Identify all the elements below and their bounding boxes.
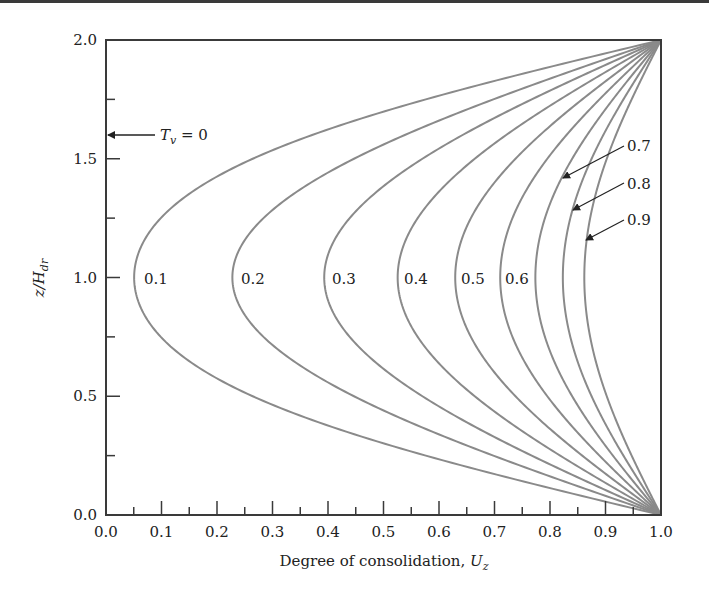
x-tick-label: 0.5: [372, 523, 396, 541]
consolidation-chart: 0.00.10.20.30.40.50.60.70.80.91.0 0.00.5…: [0, 0, 709, 609]
isochrone-tv-0.8: [563, 40, 661, 515]
curve-label-0.6: 0.6: [505, 270, 529, 288]
isochrone-tv-0.9: [584, 40, 661, 515]
y-tick-label: 1.0: [73, 269, 97, 287]
curve-label-0.8: 0.8: [627, 175, 651, 193]
tv0-label: Tv = 0: [160, 126, 208, 147]
curve-label-0.5: 0.5: [461, 270, 485, 288]
curve-label-0.4: 0.4: [404, 270, 428, 288]
x-tick-label: 0.0: [94, 523, 118, 541]
x-tick-label: 0.6: [427, 523, 451, 541]
isochrone-tv-0.3: [324, 40, 661, 515]
isochrone-curves: [134, 40, 661, 515]
x-tick-label: 0.3: [261, 523, 285, 541]
curve-label-0.7: 0.7: [627, 137, 651, 155]
curve-label-0.3: 0.3: [332, 270, 356, 288]
x-tick-label: 1.0: [649, 523, 673, 541]
x-tick-label: 0.9: [594, 523, 618, 541]
x-tick-label: 0.4: [316, 523, 340, 541]
x-tick-label: 0.2: [205, 523, 229, 541]
x-tick-label: 0.7: [483, 523, 507, 541]
isochrone-tv-0.7: [535, 40, 661, 515]
y-tick-label: 0.5: [73, 387, 97, 405]
curve-label-0.9: 0.9: [627, 211, 651, 229]
x-axis-ticks: 0.00.10.20.30.40.50.60.70.80.91.0: [94, 501, 673, 541]
y-tick-label: 1.5: [73, 150, 97, 168]
isochrone-tv-0.2: [232, 40, 661, 515]
y-tick-label: 2.0: [73, 31, 97, 49]
curve-label-0.1: 0.1: [144, 270, 168, 288]
isochrone-tv-0.5: [455, 40, 661, 515]
y-axis-title: z/Hdr: [30, 258, 51, 298]
x-axis-title: Degree of consolidation, Uz: [279, 552, 488, 573]
curve-label-0.2: 0.2: [241, 270, 265, 288]
x-tick-label: 0.8: [538, 523, 562, 541]
x-tick-label: 0.1: [150, 523, 174, 541]
y-axis-ticks: 0.00.51.01.52.0: [73, 31, 120, 524]
isochrone-tv-0.4: [398, 40, 661, 515]
y-tick-label: 0.0: [73, 506, 97, 524]
arrow-0.9: [586, 220, 624, 240]
arrow-0.7: [563, 146, 624, 178]
